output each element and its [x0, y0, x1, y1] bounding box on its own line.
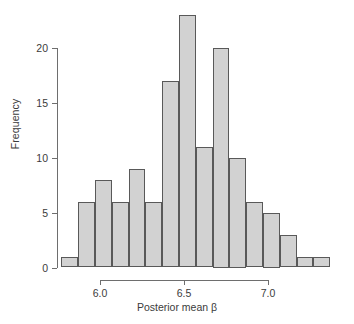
histogram-bar	[95, 180, 112, 268]
x-axis-tick	[100, 280, 101, 285]
histogram-bar	[297, 257, 314, 268]
x-axis-tick-label: 6.5	[166, 287, 202, 299]
x-axis-tick	[184, 280, 185, 285]
histogram-bar	[179, 15, 196, 267]
histogram-bar	[145, 202, 162, 268]
histogram-figure: Frequency Posterior mean β 051015206.06.…	[0, 0, 354, 324]
y-axis-tick-label: 10	[20, 153, 48, 163]
y-axis-tick-label: 20	[20, 43, 48, 53]
y-axis-tick	[52, 48, 57, 49]
histogram-bar	[162, 81, 179, 268]
histogram-bar	[196, 147, 213, 268]
histogram-bar	[280, 235, 297, 268]
x-axis-label: Posterior mean β	[0, 301, 354, 313]
x-axis-tick-label: 7.0	[250, 287, 286, 299]
x-axis-tick-label: 6.0	[82, 287, 118, 299]
y-axis-tick	[52, 158, 57, 159]
x-axis-tick	[268, 280, 269, 285]
histogram-bar	[213, 48, 230, 268]
y-axis-tick	[52, 213, 57, 214]
y-axis-tick-label: 0	[20, 263, 48, 273]
histogram-bar	[229, 158, 246, 268]
y-axis-tick-label: 5	[20, 208, 48, 218]
histogram-bar	[246, 202, 263, 268]
histogram-bar	[313, 257, 330, 268]
histogram-bar	[263, 213, 280, 268]
y-axis-line	[57, 48, 58, 268]
histogram-bar	[129, 169, 146, 268]
y-axis-tick-label: 15	[20, 98, 48, 108]
histogram-bar	[61, 257, 78, 268]
histogram-bar	[112, 202, 129, 268]
y-axis-tick	[52, 268, 57, 269]
y-axis-tick	[52, 103, 57, 104]
histogram-bar	[78, 202, 95, 268]
